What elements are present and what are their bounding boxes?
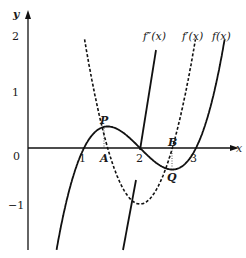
y-tick-2: 2: [12, 30, 19, 43]
y-axis-arrow-icon: [25, 10, 31, 19]
y-axis-label: y: [12, 8, 21, 21]
origin-label: 0: [13, 150, 20, 163]
label-f-double-prime: f″(x): [142, 30, 166, 43]
point-A-label: A: [99, 152, 109, 165]
point-Q-label: Q: [167, 171, 177, 184]
point-B-label: B: [167, 136, 177, 149]
label-f: f(x): [211, 30, 231, 43]
x-tick-2: 2: [136, 152, 143, 165]
y-tick-1: 1: [12, 86, 19, 99]
function-graph: y x 0 2 1 −1 1 2 3 f″(x) f′(x) f(x) P A …: [0, 0, 246, 258]
point-P-label: P: [99, 114, 109, 127]
label-f-prime: f′(x): [181, 30, 203, 43]
x-axis-label: x: [236, 142, 243, 155]
curve-f-double-prime-upper: [140, 50, 156, 150]
y-tick-neg1: −1: [8, 199, 24, 212]
